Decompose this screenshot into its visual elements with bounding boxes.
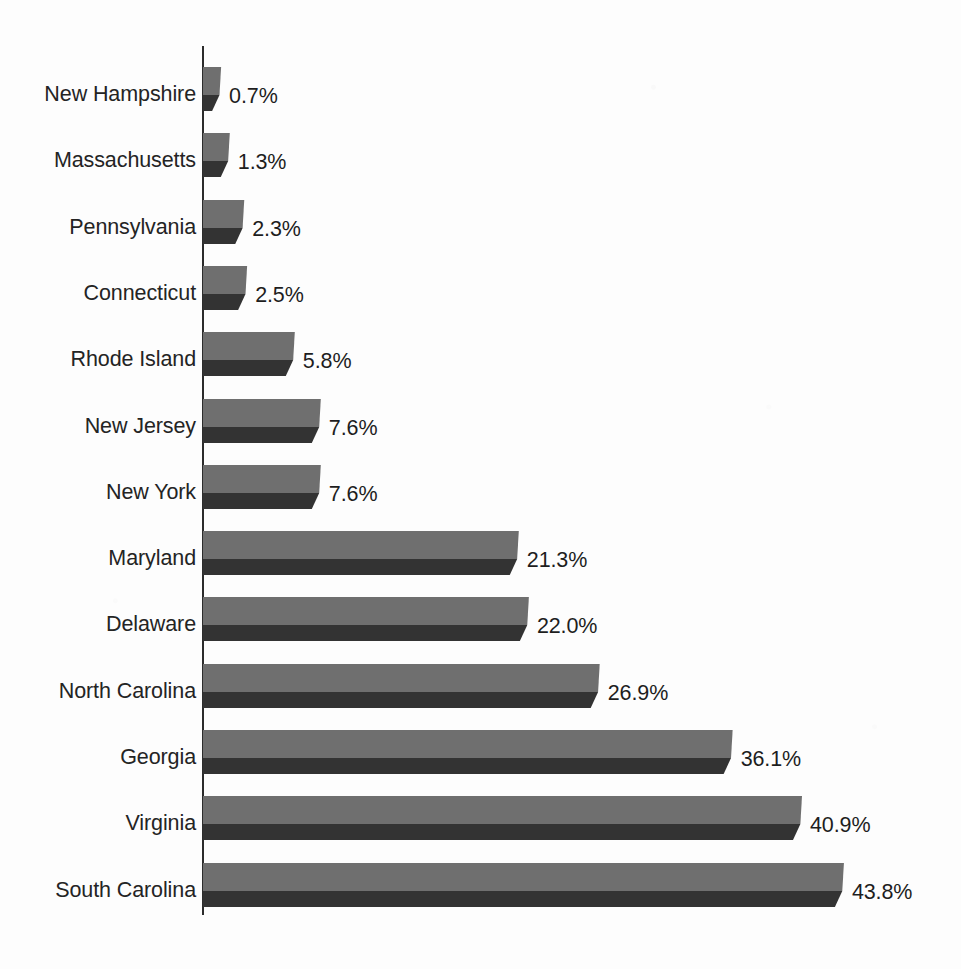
bar-value-label: 2.5% <box>255 285 304 307</box>
bar <box>203 200 248 246</box>
bar <box>203 730 737 776</box>
bar-shadow-face <box>203 426 319 442</box>
bar-row: Rhode Island5.8% <box>0 326 961 384</box>
bar-value-label: 1.3% <box>238 152 287 174</box>
bar-row: Connecticut2.5% <box>0 260 961 318</box>
bar-front-face <box>203 664 600 692</box>
category-label: New York <box>106 482 196 504</box>
bar-row: Pennsylvania2.3% <box>0 194 961 252</box>
bar-row: New Jersey7.6% <box>0 393 961 451</box>
category-label: New Jersey <box>85 416 196 438</box>
bar-shadow-face <box>203 228 243 244</box>
bar <box>203 863 848 909</box>
bar-row: Georgia36.1% <box>0 724 961 782</box>
category-label: Maryland <box>108 548 196 570</box>
bar-row: Massachusetts1.3% <box>0 127 961 185</box>
bar-front-face <box>203 796 802 824</box>
bar-row: Virginia40.9% <box>0 790 961 848</box>
category-label: Connecticut <box>84 283 196 305</box>
bar-front-face <box>203 399 321 427</box>
bar-front-face <box>203 332 295 360</box>
category-label: Pennsylvania <box>69 217 196 239</box>
category-label: Delaware <box>106 614 196 636</box>
plot-area: New Hampshire0.7%Massachusetts1.3%Pennsy… <box>0 0 961 969</box>
bar-value-label: 21.3% <box>527 550 587 572</box>
bar <box>203 67 225 113</box>
bar <box>203 133 234 179</box>
bar-front-face <box>203 67 221 95</box>
bar <box>203 796 806 842</box>
bar <box>203 266 251 312</box>
bar-front-face <box>203 465 321 493</box>
bar-value-label: 5.8% <box>303 351 352 373</box>
bar-shadow-face <box>203 824 800 840</box>
bar-chart-figure: New Hampshire0.7%Massachusetts1.3%Pennsy… <box>0 0 961 969</box>
bar-value-label: 43.8% <box>852 882 912 904</box>
bar-shadow-face <box>203 493 319 509</box>
bar-row: North Carolina26.9% <box>0 658 961 716</box>
bar-front-face <box>203 863 844 891</box>
bar-front-face <box>203 133 230 161</box>
bar-front-face <box>203 730 733 758</box>
bar-front-face <box>203 597 529 625</box>
category-label: North Carolina <box>59 681 196 703</box>
bar-front-face <box>203 531 519 559</box>
bar-front-face <box>203 266 247 294</box>
bar-front-face <box>203 200 244 228</box>
bar-value-label: 7.6% <box>329 484 378 506</box>
bar <box>203 465 325 511</box>
bar-shadow-face <box>203 559 517 575</box>
bar <box>203 597 533 643</box>
category-label: South Carolina <box>55 880 196 902</box>
bar <box>203 399 325 445</box>
bar-value-label: 0.7% <box>229 86 278 108</box>
bar-row: New Hampshire0.7% <box>0 61 961 119</box>
bar-shadow-face <box>203 758 731 774</box>
bar-shadow-face <box>203 95 219 111</box>
bar <box>203 664 604 710</box>
bar-row: New York7.6% <box>0 459 961 517</box>
bar-value-label: 36.1% <box>741 749 801 771</box>
category-label: Georgia <box>120 747 196 769</box>
category-label: New Hampshire <box>44 84 196 106</box>
bar <box>203 531 523 577</box>
bar-value-label: 2.3% <box>252 219 301 241</box>
category-label: Virginia <box>125 813 196 835</box>
bar-shadow-face <box>203 625 527 641</box>
bar-shadow-face <box>203 161 228 177</box>
bar-row: Delaware22.0% <box>0 591 961 649</box>
bar-value-label: 7.6% <box>329 418 378 440</box>
bar-shadow-face <box>203 294 246 310</box>
bar-value-label: 26.9% <box>608 683 668 705</box>
bar-value-label: 22.0% <box>537 616 597 638</box>
bar-shadow-face <box>203 360 293 376</box>
category-label: Rhode Island <box>70 349 196 371</box>
bar-row: Maryland21.3% <box>0 525 961 583</box>
bar-shadow-face <box>203 891 842 907</box>
bar-value-label: 40.9% <box>810 815 870 837</box>
bar-shadow-face <box>203 692 598 708</box>
bar-row: South Carolina43.8% <box>0 857 961 915</box>
category-label: Massachusetts <box>54 150 196 172</box>
bar <box>203 332 299 378</box>
